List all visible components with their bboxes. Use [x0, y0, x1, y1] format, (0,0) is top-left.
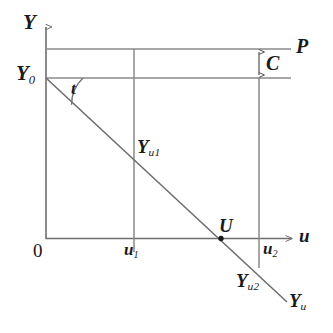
yu-line-label: Yu — [289, 291, 307, 310]
y-intercept-base-text: Y — [16, 61, 29, 85]
origin-label: 0 — [33, 241, 43, 260]
yu1-label: Yu1 — [137, 137, 160, 156]
c-gap-label: C — [266, 53, 279, 73]
y-axis-label: Y — [23, 12, 36, 33]
angle-label: t — [71, 80, 76, 97]
y-intercept-sub-text: 0 — [29, 73, 36, 87]
y-intercept-label: Y0 — [16, 63, 35, 84]
u2-sub-text: 2 — [272, 248, 277, 259]
p-line-label: P — [296, 36, 308, 56]
u1-tick-label: u1 — [124, 241, 139, 258]
angle-label-text: t — [71, 79, 76, 98]
yu2-base-text: Y — [236, 270, 248, 291]
c-gap-label-text: C — [266, 52, 279, 74]
yu2-sub-text: u2 — [248, 280, 260, 292]
diagram-vector-layer — [0, 0, 333, 333]
point-u-label-text: U — [219, 215, 233, 236]
u-axis-label: u — [299, 226, 310, 245]
yu-base-text: Y — [289, 290, 301, 311]
yu-sub-text: u — [301, 300, 307, 312]
y-axis-label-text: Y — [23, 10, 36, 34]
u2-tick-label: u2 — [263, 240, 278, 257]
yu1-sub-text: u1 — [149, 146, 161, 158]
yu2-label: Yu2 — [236, 271, 259, 290]
diagram-canvas: Y P C Y0 t Yu1 U u2 u 0 u1 Yu2 Yu — [0, 0, 333, 333]
point-u-marker — [218, 236, 223, 241]
u-axis-label-text: u — [299, 225, 310, 246]
u1-sub-text: 1 — [133, 249, 138, 260]
yu1-base-text: Y — [137, 136, 149, 157]
origin-label-text: 0 — [33, 240, 43, 261]
point-u-label: U — [219, 216, 233, 235]
p-line-label-text: P — [296, 35, 308, 57]
yu-sloping-line — [46, 78, 287, 302]
